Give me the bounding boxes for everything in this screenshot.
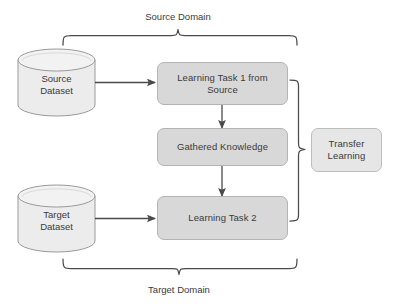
- gathered-knowledge-box[interactable]: Gathered Knowledge: [157, 128, 288, 166]
- target-domain-brace-shape: [63, 259, 297, 275]
- source-dataset-cylinder-shape: [18, 49, 95, 116]
- transfer-learning-line2: Learning: [328, 150, 366, 162]
- target-dataset-cylinder-shape: [18, 185, 95, 252]
- transfer-learning-brace-shape: [290, 80, 305, 221]
- transfer-learning-box[interactable]: Transfer Learning: [311, 128, 382, 172]
- target-domain-label: Target Domain: [129, 284, 229, 296]
- learning-task-1-line1: Learning Task 1 from: [177, 72, 268, 84]
- learning-task-2-box[interactable]: Learning Task 2: [157, 196, 288, 240]
- source-domain-label: Source Domain: [128, 11, 228, 23]
- learning-task-1-box[interactable]: Learning Task 1 from Source: [157, 62, 288, 105]
- learning-task-1-line2: Source: [207, 84, 238, 96]
- gathered-knowledge-label: Gathered Knowledge: [177, 141, 268, 153]
- transfer-learning-line1: Transfer: [329, 138, 365, 150]
- diagram-canvas: Source Domain Source Dataset Target Data…: [0, 0, 402, 308]
- source-domain-brace-shape: [63, 30, 297, 46]
- learning-task-2-label: Learning Task 2: [188, 212, 256, 224]
